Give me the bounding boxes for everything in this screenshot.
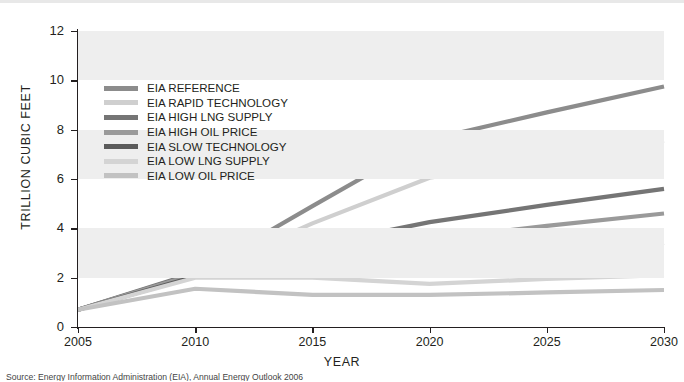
legend-item-label: EIA HIGH LNG SUPPLY — [147, 111, 272, 123]
background-band — [78, 228, 664, 277]
x-axis-tick — [195, 327, 196, 333]
legend-item: EIA REFERENCE — [104, 81, 288, 96]
legend-swatch-icon — [104, 115, 138, 120]
x-axis-tick-label: 2005 — [48, 336, 108, 349]
y-axis-tick — [71, 80, 77, 81]
y-axis-tick — [71, 31, 77, 32]
legend-item: EIA RAPID TECHNOLOGY — [104, 96, 288, 111]
legend-swatch-icon — [104, 144, 138, 149]
x-axis-tick — [664, 327, 665, 333]
y-axis-tick — [71, 130, 77, 131]
y-axis-tick — [71, 278, 77, 279]
legend-swatch-icon — [104, 159, 138, 164]
x-axis-title: YEAR — [0, 355, 684, 369]
x-axis-tick-label: 2010 — [165, 336, 225, 349]
chart-legend: EIA REFERENCEEIA RAPID TECHNOLOGYEIA HIG… — [104, 81, 288, 183]
legend-swatch-icon — [104, 86, 138, 91]
legend-item-label: EIA LOW LNG SUPPLY — [147, 155, 270, 167]
legend-item-label: EIA LOW OIL PRICE — [147, 170, 255, 182]
legend-item-label: EIA HIGH OIL PRICE — [147, 126, 257, 138]
x-axis-tick — [312, 327, 313, 333]
y-axis-title: TRILLION CUBIC FEET — [19, 57, 33, 257]
top-divider — [0, 0, 684, 3]
legend-swatch-icon — [104, 130, 138, 135]
x-axis-tick — [78, 327, 79, 333]
legend-item: EIA LOW LNG SUPPLY — [104, 154, 288, 169]
y-axis-line — [77, 29, 78, 329]
x-axis-tick-label: 2030 — [634, 336, 684, 349]
legend-item-label: EIA RAPID TECHNOLOGY — [147, 97, 288, 109]
x-axis-tick — [547, 327, 548, 333]
legend-swatch-icon — [104, 100, 138, 105]
x-axis-tick-label: 2025 — [517, 336, 577, 349]
figure-caption: Source: Energy Information Administratio… — [6, 372, 666, 381]
x-axis-tick — [430, 327, 431, 333]
y-axis-tick — [71, 179, 77, 180]
chart-figure: 024681012 200520102015202020252030 TRILL… — [0, 0, 684, 382]
legend-item: EIA HIGH OIL PRICE — [104, 125, 288, 140]
legend-item: EIA HIGH LNG SUPPLY — [104, 110, 288, 125]
y-axis-tick-label: 0 — [24, 320, 64, 333]
x-axis-line — [77, 327, 665, 328]
x-axis-tick-label: 2020 — [400, 336, 460, 349]
background-band — [78, 31, 664, 80]
legend-item: EIA SLOW TECHNOLOGY — [104, 139, 288, 154]
chart-series-line — [78, 289, 664, 310]
legend-item: EIA LOW OIL PRICE — [104, 169, 288, 184]
y-axis-tick — [71, 327, 77, 328]
legend-item-label: EIA SLOW TECHNOLOGY — [147, 141, 287, 153]
legend-item-label: EIA REFERENCE — [147, 82, 240, 94]
y-axis-tick-label: 2 — [24, 271, 64, 284]
y-axis-tick-label: 12 — [24, 24, 64, 37]
legend-swatch-icon — [104, 173, 138, 178]
x-axis-tick-label: 2015 — [282, 336, 342, 349]
y-axis-tick — [71, 228, 77, 229]
